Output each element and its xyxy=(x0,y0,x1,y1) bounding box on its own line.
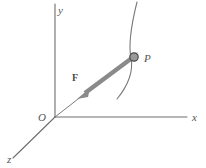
force-vector-arrowhead xyxy=(77,88,90,99)
force-vector-label: F xyxy=(72,72,78,83)
point-p-label: P xyxy=(143,52,151,64)
y-axis-label: y xyxy=(57,4,63,16)
origin-label: O xyxy=(38,111,46,123)
point-p-marker xyxy=(130,53,138,61)
physics-diagram-figure: y x z O P F xyxy=(0,0,206,168)
z-axis-line xyxy=(13,117,55,158)
z-axis-label: z xyxy=(6,153,12,165)
x-axis-label: x xyxy=(191,111,197,123)
diagram-canvas: y x z O P F xyxy=(0,0,206,168)
trajectory-curve xyxy=(117,2,137,99)
